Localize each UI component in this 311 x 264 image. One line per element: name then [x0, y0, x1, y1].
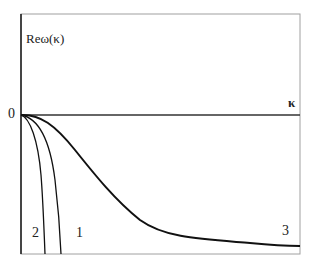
curve-1-label: 1	[76, 226, 83, 240]
plot-frame	[21, 14, 300, 254]
curve-3	[21, 115, 300, 246]
zero-tick-label: 0	[8, 107, 15, 121]
curve-1	[21, 115, 61, 254]
curve-3-label: 3	[282, 224, 289, 238]
x-axis-label: κ	[288, 96, 295, 109]
curve-2-label: 2	[32, 226, 39, 240]
y-axis-label: Reω(κ)	[26, 32, 64, 45]
